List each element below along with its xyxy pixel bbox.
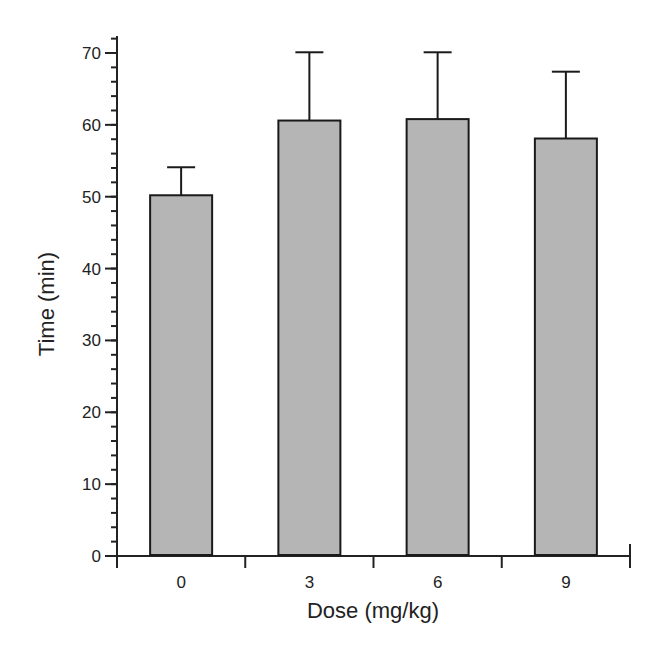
y-axis: 010203040506070 [82,36,117,568]
y-tick-label: 60 [82,116,101,135]
y-tick-label: 70 [82,44,101,63]
x-tick-label: 0 [176,573,185,592]
bar-dose-9 [535,139,597,555]
x-tick-label: 9 [561,573,570,592]
y-tick-label: 30 [82,331,101,350]
bar-chart: 010203040506070 0369 Dose (mg/kg) Time (… [0,0,665,660]
bar-dose-6 [407,119,469,555]
x-axis-title: Dose (mg/kg) [307,598,439,623]
y-tick-label: 50 [82,188,101,207]
x-tick-label: 3 [305,573,314,592]
bar-dose-3 [278,121,340,555]
y-tick-label: 40 [82,260,101,279]
y-tick-label: 10 [82,475,101,494]
bars-group [150,52,597,555]
x-tick-label: 6 [433,573,442,592]
bar-dose-0 [150,195,212,555]
y-tick-label: 20 [82,403,101,422]
y-axis-title: Time (min) [34,252,59,356]
y-tick-label: 0 [92,547,101,566]
